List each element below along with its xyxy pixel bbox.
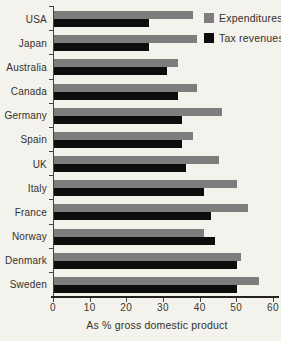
bar-tax-revenues-australia: [54, 67, 168, 75]
legend-item-expenditures: Expenditures: [204, 12, 281, 23]
bar-tax-revenues-uk: [54, 164, 186, 172]
category-label-canada: Canada: [0, 85, 47, 98]
category-tick: [49, 6, 53, 7]
category-tick: [49, 30, 53, 31]
x-tick-label-20: 20: [120, 302, 132, 313]
category-label-uk: UK: [0, 158, 47, 171]
category-tick: [49, 272, 53, 273]
legend-item-tax-revenues: Tax revenues: [204, 32, 281, 43]
bar-tax-revenues-spain: [54, 140, 182, 148]
bar-expenditures-japan: [54, 35, 197, 43]
bar-expenditures-norway: [54, 229, 204, 237]
bar-expenditures-australia: [54, 59, 179, 67]
legend-swatch-tax-revenues: [204, 33, 214, 43]
category-label-australia: Australia: [0, 61, 47, 74]
x-axis-line: [51, 296, 279, 298]
legend-label-tax-revenues: Tax revenues: [219, 32, 281, 44]
x-tick-label-10: 10: [84, 302, 96, 313]
category-label-usa: USA: [0, 13, 47, 26]
category-label-denmark: Denmark: [0, 254, 47, 267]
bar-chart: USAJapanAustraliaCanadaGermanySpainUKIta…: [0, 0, 281, 341]
bar-tax-revenues-germany: [54, 116, 182, 124]
category-tick: [49, 248, 53, 249]
category-tick: [49, 54, 53, 55]
category-label-japan: Japan: [0, 37, 47, 50]
category-label-germany: Germany: [0, 109, 47, 122]
bar-tax-revenues-denmark: [54, 261, 237, 269]
bar-tax-revenues-canada: [54, 92, 179, 100]
category-tick: [49, 175, 53, 176]
bar-expenditures-usa: [54, 11, 193, 19]
x-tick-label-60: 60: [267, 302, 279, 313]
bar-expenditures-france: [54, 204, 248, 212]
category-tick: [49, 103, 53, 104]
category-label-france: France: [0, 206, 47, 219]
x-axis-title: As % gross domestic product: [86, 319, 227, 331]
bar-expenditures-denmark: [54, 253, 241, 261]
category-tick: [49, 127, 53, 128]
legend-swatch-expenditures: [204, 13, 214, 23]
category-tick: [49, 224, 53, 225]
bar-expenditures-spain: [54, 132, 193, 140]
legend-label-expenditures: Expenditures: [219, 12, 281, 24]
legend: Expenditures Tax revenues: [204, 12, 281, 52]
bar-expenditures-germany: [54, 108, 223, 116]
x-tick-label-40: 40: [194, 302, 206, 313]
bar-tax-revenues-japan: [54, 43, 149, 51]
x-tick-label-0: 0: [50, 302, 56, 313]
bar-tax-revenues-france: [54, 212, 212, 220]
x-tick-label-50: 50: [230, 302, 242, 313]
category-tick: [49, 151, 53, 152]
category-label-norway: Norway: [0, 230, 47, 243]
category-label-italy: Italy: [0, 182, 47, 195]
bar-tax-revenues-italy: [54, 188, 204, 196]
bar-tax-revenues-usa: [54, 19, 149, 27]
bar-expenditures-uk: [54, 156, 219, 164]
bar-tax-revenues-sweden: [54, 285, 237, 293]
x-tick-label-30: 30: [157, 302, 169, 313]
category-label-spain: Spain: [0, 133, 47, 146]
category-tick: [49, 79, 53, 80]
bar-expenditures-canada: [54, 84, 197, 92]
category-tick: [49, 199, 53, 200]
bar-tax-revenues-norway: [54, 237, 215, 245]
category-label-sweden: Sweden: [0, 278, 47, 291]
bar-expenditures-sweden: [54, 277, 259, 285]
bar-expenditures-italy: [54, 180, 237, 188]
